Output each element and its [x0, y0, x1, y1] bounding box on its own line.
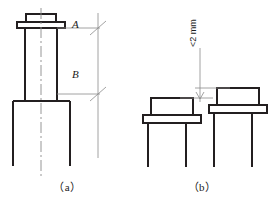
panel-a-drawing [0, 0, 135, 204]
caption-panel-a: （a） [0, 178, 135, 194]
left-column-flange [143, 115, 201, 123]
panel-b: <2 mm （b） [135, 0, 269, 204]
tolerance-label: <2 mm [188, 19, 198, 47]
right-column-body [217, 88, 259, 105]
right-column-flange [209, 105, 267, 113]
dimension-label-a: A [72, 18, 79, 30]
left-column-body [151, 98, 193, 115]
engineering-figure: A B （a） [0, 0, 269, 204]
dimension-label-b: B [72, 68, 79, 80]
panel-b-drawing [135, 0, 269, 204]
caption-panel-b: （b） [135, 178, 269, 194]
panel-a: A B （a） [0, 0, 135, 204]
